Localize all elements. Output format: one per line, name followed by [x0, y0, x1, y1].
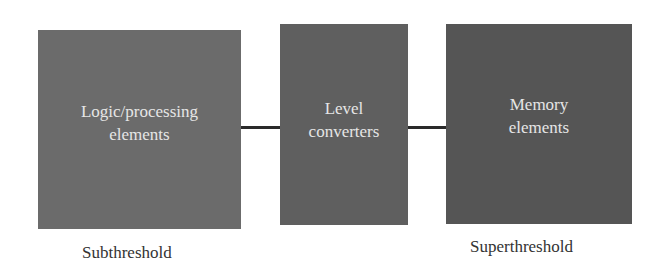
level-block-label-line-1: Level [309, 97, 380, 120]
logic-block-label-line-2: elements [81, 123, 198, 146]
memory-elements-block: Memory elements [446, 24, 632, 224]
connector-logic-to-level [241, 126, 280, 129]
subthreshold-label: Subthreshold [82, 243, 172, 263]
memory-block-label-line-2: elements [509, 116, 569, 139]
logic-processing-elements-block: Logic/processing elements [38, 30, 241, 229]
level-converters-block: Level converters [280, 24, 408, 225]
logic-block-label-line-1: Logic/processing [81, 100, 198, 123]
level-block-label-line-2: converters [309, 120, 380, 143]
memory-block-label-line-1: Memory [509, 93, 569, 116]
connector-level-to-memory [408, 126, 446, 129]
superthreshold-label: Superthreshold [470, 237, 573, 257]
